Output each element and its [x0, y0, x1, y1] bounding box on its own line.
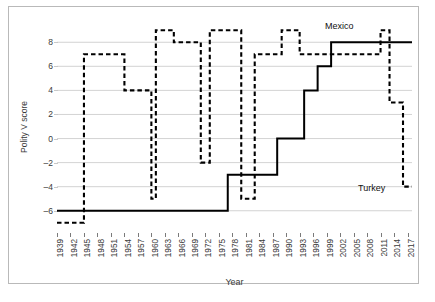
plot-area: [57, 23, 412, 230]
x-tick-mark: [381, 233, 382, 237]
x-tick-mark: [327, 233, 328, 237]
x-tick-mark: [57, 233, 58, 237]
x-tick-label: 1951: [110, 239, 119, 257]
x-tick-mark: [408, 233, 409, 237]
x-tick-mark: [192, 233, 193, 237]
x-tick-label: 2011: [379, 239, 388, 257]
x-tick-label: 1939: [56, 239, 65, 257]
x-tick-mark: [165, 233, 166, 237]
series-lines: [57, 23, 412, 230]
y-tick-label: –2: [17, 158, 53, 168]
y-tick-label: 6: [17, 61, 53, 71]
x-tick-mark: [246, 233, 247, 237]
x-tick-mark: [340, 233, 341, 237]
x-tick-label: 1966: [177, 239, 186, 257]
x-tick-label: 1969: [191, 239, 200, 257]
x-tick-label: 1972: [204, 239, 213, 257]
x-tick-mark: [70, 233, 71, 237]
figure-container: Polity V score 86420–2–4–6 1939194219451…: [0, 0, 435, 302]
x-tick-mark: [138, 233, 139, 237]
x-tick-label: 1942: [69, 239, 78, 257]
y-tick-label: –4: [17, 182, 53, 192]
x-tick-label: 2005: [352, 239, 361, 257]
x-tick-label: 1999: [325, 239, 334, 257]
y-tick-label: 4: [17, 85, 53, 95]
x-tick-mark: [259, 233, 260, 237]
x-tick-label: 1960: [150, 239, 159, 257]
x-tick-mark: [205, 233, 206, 237]
x-tick-label: 2017: [406, 239, 415, 257]
x-tick-mark: [124, 233, 125, 237]
y-tick-label: 8: [17, 37, 53, 47]
chart-frame: Polity V score 86420–2–4–6 1939194219451…: [8, 6, 419, 284]
series-label-turkey: Turkey: [358, 183, 385, 193]
y-tick-label: –6: [17, 206, 53, 216]
y-axis-tick-labels: 86420–2–4–6: [9, 23, 53, 230]
x-tick-mark: [313, 233, 314, 237]
series-label-mexico: Mexico: [325, 21, 354, 31]
x-tick-label: 1975: [217, 239, 226, 257]
y-tick-label: 0: [17, 134, 53, 144]
x-tick-mark: [219, 233, 220, 237]
x-tick-label: 2008: [366, 239, 375, 257]
x-tick-mark: [232, 233, 233, 237]
x-tick-mark: [84, 233, 85, 237]
x-tick-label: 1984: [258, 239, 267, 257]
x-tick-label: 1993: [298, 239, 307, 257]
x-tick-label: 1954: [123, 239, 132, 257]
x-tick-label: 1996: [312, 239, 321, 257]
x-tick-label: 1957: [137, 239, 146, 257]
x-tick-mark: [286, 233, 287, 237]
x-tick-label: 1990: [285, 239, 294, 257]
x-tick-mark: [178, 233, 179, 237]
series-line-turkey: [57, 30, 412, 223]
x-tick-mark: [300, 233, 301, 237]
x-axis-title: Year: [57, 277, 412, 287]
x-tick-label: 2014: [393, 239, 402, 257]
x-tick-mark: [394, 233, 395, 237]
x-tick-mark: [111, 233, 112, 237]
x-tick-label: 1948: [96, 239, 105, 257]
x-tick-label: 2002: [339, 239, 348, 257]
x-tick-mark: [367, 233, 368, 237]
x-axis-tick-labels: 1939194219451948195119541957196019631966…: [57, 233, 412, 277]
x-tick-label: 1981: [244, 239, 253, 257]
x-tick-mark: [354, 233, 355, 237]
x-tick-mark: [151, 233, 152, 237]
x-tick-mark: [273, 233, 274, 237]
x-tick-label: 1978: [231, 239, 240, 257]
x-tick-label: 1945: [83, 239, 92, 257]
y-tick-label: 2: [17, 109, 53, 119]
x-tick-mark: [97, 233, 98, 237]
x-tick-label: 1987: [271, 239, 280, 257]
x-tick-label: 1963: [164, 239, 173, 257]
